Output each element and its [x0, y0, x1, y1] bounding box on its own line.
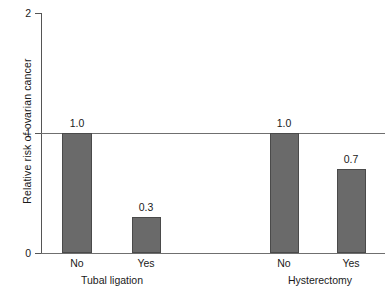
x-group-label-hysterectomy: Hysterectomy: [270, 275, 370, 286]
y-tick-mark-2: [35, 13, 41, 14]
bar-value-label-hyst-yes: 0.7: [326, 154, 376, 165]
bar-value-label-hyst-no: 1.0: [259, 118, 309, 129]
bar-hyst-no: [270, 133, 299, 253]
reference-line-at-1: [41, 133, 385, 134]
x-axis-baseline: [41, 253, 385, 254]
x-category-label-hyst-no: No: [259, 258, 309, 269]
y-tick-label-2: 2: [0, 8, 31, 18]
x-category-label-hyst-yes: Yes: [326, 258, 376, 269]
bar-tubal-yes: [132, 217, 161, 253]
y-tick-label-0: 0: [0, 248, 31, 258]
x-category-label-tubal-no: No: [52, 258, 102, 269]
bar-tubal-no: [62, 133, 92, 253]
bar-hyst-yes: [337, 169, 366, 253]
y-tick-label-1: 1: [0, 128, 31, 138]
bar-chart-figure: Relative risk of ovarian cancer 2 1 0 1.…: [0, 0, 389, 293]
bar-value-label-tubal-no: 1.0: [52, 118, 102, 129]
x-category-label-tubal-yes: Yes: [121, 258, 171, 269]
bar-value-label-tubal-yes: 0.3: [121, 202, 171, 213]
x-group-label-tubal-ligation: Tubal ligation: [62, 275, 162, 286]
